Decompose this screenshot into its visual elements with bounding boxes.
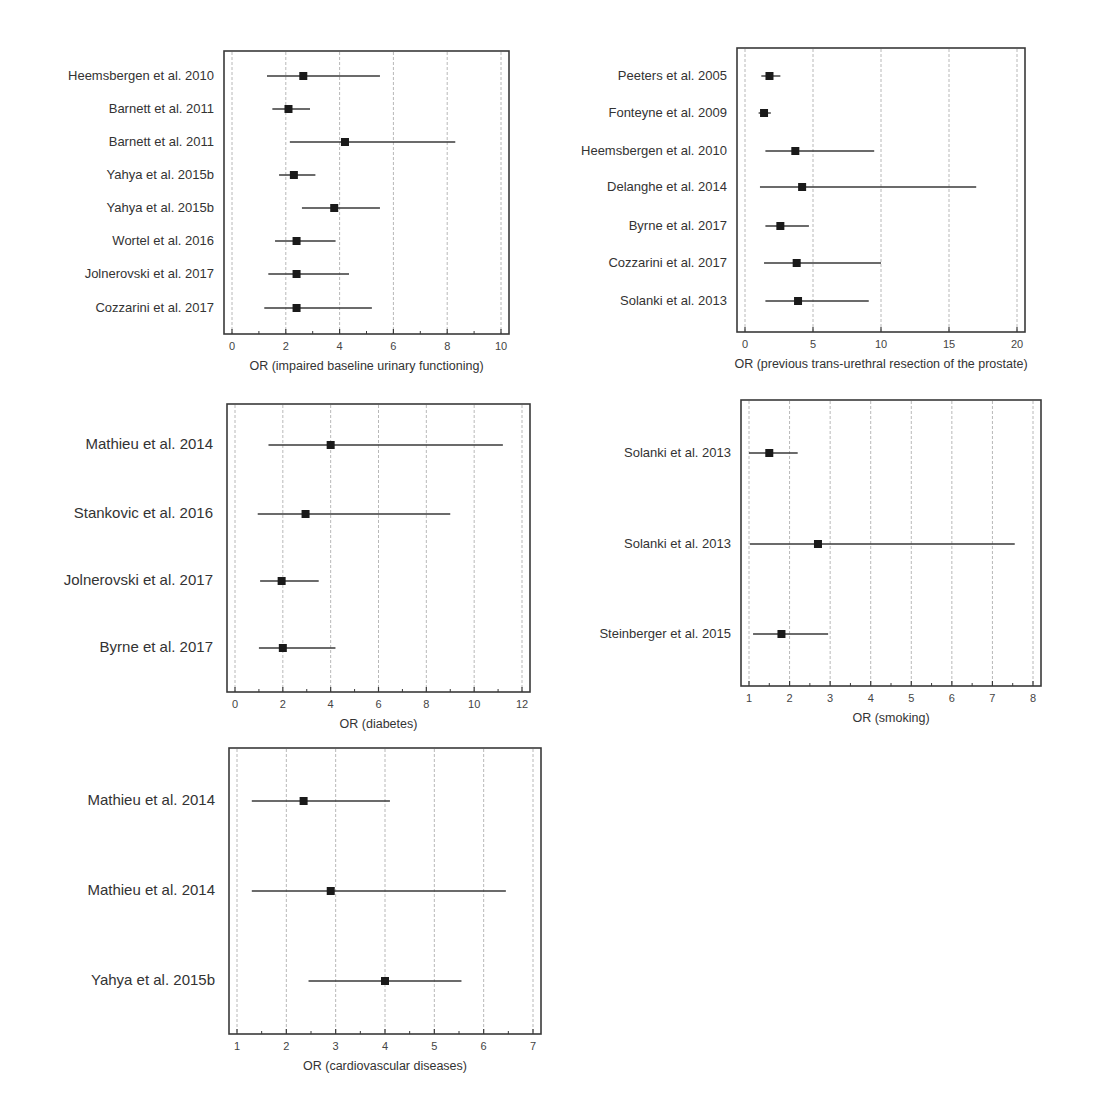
- tick-label: 6: [375, 698, 381, 710]
- tick-label: 4: [337, 340, 343, 352]
- tick-label: 1: [234, 1040, 240, 1052]
- tick-label: 2: [787, 692, 793, 704]
- study-row: Yahya et al. 2015b: [91, 971, 461, 988]
- forest-plots-figure: 0246810OR (impaired baseline urinary fun…: [0, 0, 1117, 1116]
- study-row: Barnett et al. 2011: [109, 101, 310, 116]
- tick-label: 10: [468, 698, 480, 710]
- study-row: Yahya et al. 2015b: [107, 167, 316, 182]
- tick-label: 1: [746, 692, 752, 704]
- study-label: Yahya et al. 2015b: [107, 200, 214, 215]
- study-label: Stankovic et al. 2016: [74, 504, 213, 521]
- tick-label: 6: [390, 340, 396, 352]
- odds-ratio-marker: [302, 510, 310, 518]
- study-row: Cozzarini et al. 2017: [608, 255, 881, 270]
- study-label: Yahya et al. 2015b: [91, 971, 215, 988]
- tick-label: 3: [827, 692, 833, 704]
- x-axis-label: OR (smoking): [852, 711, 929, 725]
- x-axis-label: OR (cardiovascular diseases): [303, 1059, 467, 1073]
- odds-ratio-marker: [794, 297, 802, 305]
- tick-label: 0: [232, 698, 238, 710]
- odds-ratio-marker: [278, 577, 286, 585]
- tick-label: 6: [949, 692, 955, 704]
- study-label: Jolnerovski et al. 2017: [64, 571, 213, 588]
- odds-ratio-marker: [777, 630, 785, 638]
- forest-plot-panel: 0246810OR (impaired baseline urinary fun…: [68, 51, 509, 373]
- tick-label: 4: [382, 1040, 388, 1052]
- x-axis-label: OR (previous trans-urethral resection of…: [734, 357, 1027, 371]
- study-label: Mathieu et al. 2014: [87, 791, 215, 808]
- study-label: Mathieu et al. 2014: [85, 435, 213, 452]
- tick-label: 5: [810, 338, 816, 350]
- odds-ratio-marker: [327, 441, 335, 449]
- odds-ratio-marker: [293, 237, 301, 245]
- study-row: Barnett et al. 2011: [109, 134, 456, 149]
- study-row: Solanki et al. 2013: [620, 293, 869, 308]
- odds-ratio-marker: [793, 259, 801, 267]
- tick-label: 7: [530, 1040, 536, 1052]
- study-row: Solanki et al. 2013: [624, 445, 798, 460]
- odds-ratio-marker: [290, 171, 298, 179]
- odds-ratio-marker: [300, 797, 308, 805]
- study-row: Jolnerovski et al. 2017: [85, 266, 349, 281]
- tick-label: 8: [423, 698, 429, 710]
- study-label: Cozzarini et al. 2017: [608, 255, 727, 270]
- odds-ratio-marker: [327, 887, 335, 895]
- tick-label: 4: [328, 698, 334, 710]
- study-label: Steinberger et al. 2015: [599, 626, 731, 641]
- study-label: Peeters et al. 2005: [618, 68, 727, 83]
- plot-frame: [741, 400, 1041, 686]
- tick-label: 8: [1030, 692, 1036, 704]
- study-label: Byrne et al. 2017: [100, 638, 213, 655]
- study-label: Solanki et al. 2013: [624, 445, 731, 460]
- study-row: Cozzarini et al. 2017: [95, 300, 371, 315]
- odds-ratio-marker: [284, 105, 292, 113]
- odds-ratio-marker: [791, 147, 799, 155]
- tick-label: 10: [875, 338, 887, 350]
- study-label: Delanghe et al. 2014: [607, 179, 727, 194]
- study-label: Barnett et al. 2011: [109, 101, 214, 116]
- study-label: Barnett et al. 2011: [109, 134, 214, 149]
- study-row: Yahya et al. 2015b: [107, 200, 380, 215]
- tick-label: 3: [333, 1040, 339, 1052]
- x-axis-label: OR (impaired baseline urinary functionin…: [249, 359, 483, 373]
- tick-label: 20: [1011, 338, 1023, 350]
- study-label: Heemsbergen et al. 2010: [581, 143, 727, 158]
- study-label: Byrne et al. 2017: [629, 218, 727, 233]
- forest-plot-panel: 1234567OR (cardiovascular diseases)Mathi…: [87, 748, 541, 1073]
- tick-label: 0: [742, 338, 748, 350]
- odds-ratio-marker: [293, 270, 301, 278]
- study-row: Mathieu et al. 2014: [87, 791, 390, 808]
- study-label: Mathieu et al. 2014: [87, 881, 215, 898]
- study-row: Fonteyne et al. 2009: [608, 105, 770, 120]
- study-label: Solanki et al. 2013: [620, 293, 727, 308]
- study-label: Jolnerovski et al. 2017: [85, 266, 214, 281]
- study-label: Solanki et al. 2013: [624, 536, 731, 551]
- study-row: Delanghe et al. 2014: [607, 179, 976, 194]
- tick-label: 10: [495, 340, 507, 352]
- study-row: Peeters et al. 2005: [618, 68, 781, 83]
- odds-ratio-marker: [381, 977, 389, 985]
- tick-label: 5: [431, 1040, 437, 1052]
- study-label: Wortel et al. 2016: [112, 233, 214, 248]
- study-row: Solanki et al. 2013: [624, 536, 1015, 551]
- tick-label: 2: [283, 1040, 289, 1052]
- odds-ratio-marker: [798, 183, 806, 191]
- study-row: Mathieu et al. 2014: [87, 881, 505, 898]
- tick-label: 5: [908, 692, 914, 704]
- x-axis-label: OR (diabetes): [340, 717, 418, 731]
- tick-label: 6: [481, 1040, 487, 1052]
- odds-ratio-marker: [765, 72, 773, 80]
- forest-plot-panel: 05101520OR (previous trans-urethral rese…: [581, 48, 1028, 371]
- study-label: Yahya et al. 2015b: [107, 167, 214, 182]
- study-row: Byrne et al. 2017: [100, 638, 336, 655]
- forest-plot-panel: 024681012OR (diabetes)Mathieu et al. 201…: [64, 404, 530, 731]
- odds-ratio-marker: [765, 449, 773, 457]
- tick-label: 15: [943, 338, 955, 350]
- tick-label: 7: [989, 692, 995, 704]
- study-row: Steinberger et al. 2015: [599, 626, 828, 641]
- tick-label: 2: [283, 340, 289, 352]
- study-row: Stankovic et al. 2016: [74, 504, 451, 521]
- odds-ratio-marker: [330, 204, 338, 212]
- odds-ratio-marker: [341, 138, 349, 146]
- tick-label: 0: [229, 340, 235, 352]
